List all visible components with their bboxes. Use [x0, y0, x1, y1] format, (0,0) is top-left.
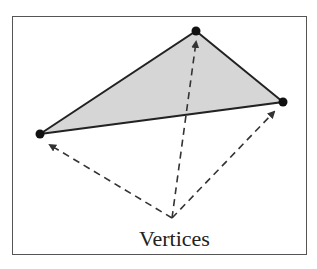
arrow-to-left-vertex	[50, 145, 172, 218]
vertices-label: Vertices	[0, 226, 317, 252]
triangle-shape	[40, 31, 283, 134]
vertex-right	[279, 98, 288, 107]
arrow-to-right-vertex	[172, 112, 274, 218]
vertex-left	[36, 130, 45, 139]
vertex-top	[192, 27, 201, 36]
